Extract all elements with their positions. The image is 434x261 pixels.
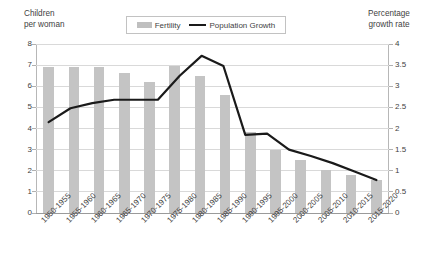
left-tick-label: 3 — [28, 146, 32, 154]
right-tick-label: 3.5 — [395, 61, 406, 69]
legend-item-population-growth[interactable]: Population Growth — [189, 21, 275, 30]
right-tick-mark — [389, 86, 393, 87]
right-tick-label: 2 — [395, 125, 399, 133]
legend-line-swatch-icon — [189, 24, 206, 26]
right-tick-label: 2.5 — [395, 103, 406, 111]
legend-item-fertility[interactable]: Fertility — [137, 21, 181, 30]
right-tick-label: 1 — [395, 167, 399, 175]
right-tick-label: 4 — [395, 40, 399, 48]
right-tick-mark — [389, 107, 393, 108]
right-tick-mark — [389, 44, 393, 45]
left-tick-label: 7 — [28, 61, 32, 69]
legend-label-population-growth: Population Growth — [209, 21, 275, 30]
right-axis-title: Percentage growth rate — [352, 8, 426, 30]
right-tick-mark — [389, 170, 393, 171]
left-tick-label: 2 — [28, 167, 32, 175]
left-tick-label: 1 — [28, 188, 32, 196]
right-tick-label: 1.5 — [395, 146, 406, 154]
left-tick-label: 4 — [28, 125, 32, 133]
left-tick-label: 6 — [28, 82, 32, 90]
right-tick-label: 0 — [395, 209, 399, 217]
left-tick-label: 8 — [28, 40, 32, 48]
legend-bar-swatch-icon — [137, 22, 152, 28]
left-axis-title: Children per woman — [24, 8, 65, 30]
right-tick-mark — [389, 149, 393, 150]
left-tick-label: 5 — [28, 103, 32, 111]
left-tick-label: 0 — [28, 209, 32, 217]
fertility-population-growth-chart: Children per woman Percentage growth rat… — [0, 0, 434, 261]
right-tick-label: 3 — [395, 82, 399, 90]
plot-area — [36, 44, 389, 213]
population-growth-line — [49, 56, 377, 180]
chart-legend: Fertility Population Growth — [126, 16, 286, 34]
line-series-population-growth — [36, 44, 389, 213]
right-tick-mark — [389, 128, 393, 129]
legend-label-fertility: Fertility — [155, 21, 181, 30]
right-tick-mark — [389, 213, 393, 214]
right-tick-mark — [389, 65, 393, 66]
